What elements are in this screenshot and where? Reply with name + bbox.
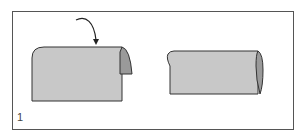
folding-diagram xyxy=(0,0,303,140)
sheet-after-fold xyxy=(167,51,263,94)
step-number: 1 xyxy=(17,111,23,123)
sheet-before-fold xyxy=(32,47,132,101)
